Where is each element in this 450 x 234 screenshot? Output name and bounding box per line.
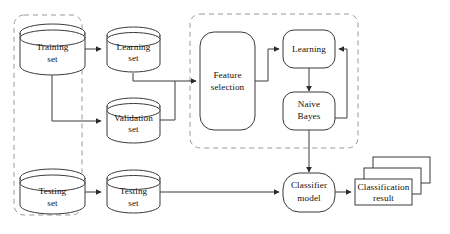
testing-set-left-label-line1: Testing [39,186,67,196]
diagram-canvas: Training set Learning set Validation set… [0,0,450,234]
connector-training-to-validation-set [52,75,101,121]
validation-set-label-line1: Validation [114,113,153,123]
testing-set-right-label-line2: set [128,198,139,208]
node-feature-selection[interactable]: Feature selection [200,32,255,130]
classification-result-label-line1: Classification [358,182,410,192]
node-testing-set-right[interactable]: Testing set [107,170,160,213]
node-validation-set[interactable]: Validation set [107,98,160,143]
node-learning-set[interactable]: Learning set [107,27,160,72]
feature-selection-label-line1: Feature [213,70,241,80]
testing-set-right-label-line1: Testing [120,186,148,196]
node-learning[interactable]: Learning [283,30,335,68]
connector-learning-set-to-feature-selection [133,73,196,81]
connector-naive-bayes-feedback-to-learning [335,49,347,118]
naive-bayes-label-line1: Naive [298,99,320,109]
learning-set-label-line1: Learning [117,42,151,52]
classification-result-label-line2: result [373,193,394,203]
connector-feature-selection-to-learning [255,49,279,81]
learning-label: Learning [292,44,326,54]
learning-set-label-line2: set [128,53,139,63]
node-training-set[interactable]: Training set [20,24,85,75]
naive-bayes-label-line2: Bayes [298,111,321,121]
classifier-model-label-line1: Classifier [291,180,327,190]
node-testing-set-left[interactable]: Testing set [20,169,85,214]
training-set-label-line1: Training [36,42,68,52]
node-naive-bayes[interactable]: Naive Bayes [283,92,335,130]
node-classification-result[interactable]: Classification result [355,157,430,205]
connector-validation-set-to-feature-selection [160,81,175,120]
feature-selection-label-line2: selection [211,82,245,92]
validation-set-label-line2: set [128,124,139,134]
testing-set-left-label-line2: set [47,198,58,208]
classifier-model-label-line2: model [297,193,321,203]
training-set-label-line2: set [47,54,58,64]
node-classifier-model[interactable]: Classifier model [283,173,335,212]
flow-diagram: Training set Learning set Validation set… [0,0,450,234]
